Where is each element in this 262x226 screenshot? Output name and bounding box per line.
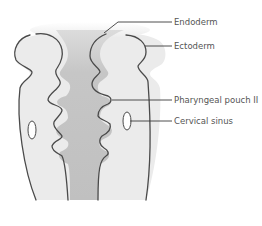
pharyngeal-diagram: Endoderm Ectoderm Pharyngeal pouch II Ce… [0, 0, 262, 226]
cervical-sinus-left [28, 121, 36, 139]
label-endoderm: Endoderm [174, 17, 218, 27]
label-ectoderm: Ectoderm [174, 41, 215, 51]
cervical-sinus-right [123, 112, 131, 130]
label-cervical-sinus: Cervical sinus [174, 116, 234, 126]
labels: Endoderm Ectoderm Pharyngeal pouch II Ce… [174, 17, 258, 126]
label-pharyngeal-pouch-ii: Pharyngeal pouch II [174, 95, 258, 105]
